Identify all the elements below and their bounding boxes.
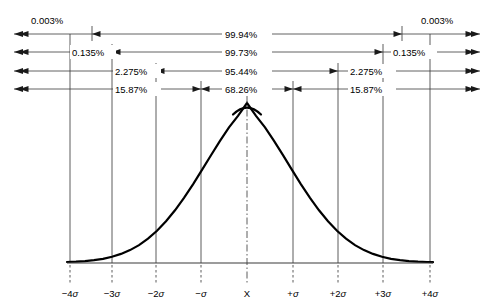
band-row-2: 0.135% 99.73% 0.135% (14, 45, 480, 59)
row4-center-label: 68.26% (225, 84, 258, 95)
axis-label-plus3sigma: +3σ (375, 288, 393, 299)
axis-label-minus2sigma: −2σ (148, 288, 166, 299)
row3-center-label: 95.44% (225, 66, 258, 77)
row3-right-label: 2.275% (350, 66, 383, 77)
axis-label-mean: X (244, 288, 251, 299)
row2-center-label: 99.73% (225, 47, 258, 58)
axis-label-minus3sigma: −3σ (104, 288, 122, 299)
row1-right-label: 0.003% (421, 15, 454, 26)
normal-distribution-figure: 0.003% 99.94% 0.003% 0.135% 99.73% 0.135… (0, 0, 494, 307)
distribution-diagram: 0.003% 99.94% 0.003% 0.135% 99.73% 0.135… (0, 0, 494, 307)
axis-label-minus1sigma: −σ (195, 288, 208, 299)
row2-left-label: 0.135% (72, 47, 105, 58)
row1-left-label: 0.003% (31, 15, 64, 26)
row2-right-label: 0.135% (393, 47, 426, 58)
row4-right-label: 15.87% (350, 84, 383, 95)
axis-label-plus1sigma: +σ (287, 288, 300, 299)
row4-left-label: 15.87% (115, 84, 148, 95)
axis-label-plus2sigma: +2σ (330, 288, 348, 299)
axis-label-minus4sigma: −4σ (62, 288, 80, 299)
row3-left-label: 2.275% (115, 66, 148, 77)
axis-label-plus4sigma: +4σ (422, 288, 440, 299)
row1-center-label: 99.94% (225, 29, 258, 40)
